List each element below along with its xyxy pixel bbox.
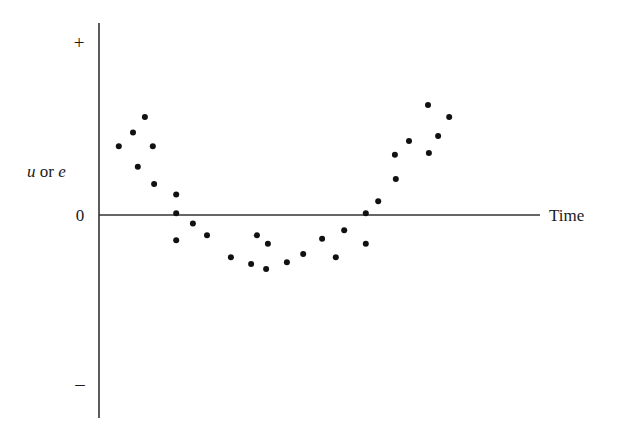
data-point-31 <box>446 114 452 120</box>
data-point-30 <box>435 133 441 139</box>
data-point-16 <box>263 266 269 272</box>
data-point-7 <box>173 191 179 197</box>
data-point-20 <box>333 254 339 260</box>
data-point-17 <box>284 259 290 265</box>
data-point-15 <box>265 241 271 247</box>
data-point-18 <box>300 251 306 257</box>
data-point-12 <box>228 254 234 260</box>
data-point-27 <box>406 138 412 144</box>
y-axis-label-var1: u <box>27 162 36 181</box>
data-point-22 <box>363 210 369 216</box>
y-axis-label: u or e <box>27 162 66 181</box>
x-axis-label: Time <box>549 206 584 225</box>
residual-scatter-chart: + 0 – u or e Time <box>0 0 622 445</box>
data-point-6 <box>151 181 157 187</box>
data-point-23 <box>363 241 369 247</box>
data-point-19 <box>319 236 325 242</box>
data-points <box>116 102 452 272</box>
data-point-26 <box>392 152 398 158</box>
data-point-13 <box>248 261 254 267</box>
y-tick-label-minus: – <box>74 373 85 394</box>
y-tick-label-zero: 0 <box>76 206 85 225</box>
y-axis-label-var2: e <box>58 162 66 181</box>
y-axis-label-connector: or <box>36 162 59 181</box>
data-point-10 <box>190 220 196 226</box>
data-point-29 <box>426 150 432 156</box>
data-point-2 <box>130 129 136 135</box>
data-point-5 <box>135 164 141 170</box>
data-point-9 <box>173 237 179 243</box>
data-point-8 <box>173 210 179 216</box>
data-point-3 <box>142 114 148 120</box>
data-point-14 <box>254 232 260 238</box>
data-point-21 <box>341 227 347 233</box>
data-point-4 <box>150 143 156 149</box>
data-point-11 <box>204 232 210 238</box>
data-point-24 <box>375 198 381 204</box>
data-point-25 <box>393 176 399 182</box>
data-point-1 <box>116 143 122 149</box>
y-tick-label-plus: + <box>74 32 85 53</box>
data-point-28 <box>425 102 431 108</box>
